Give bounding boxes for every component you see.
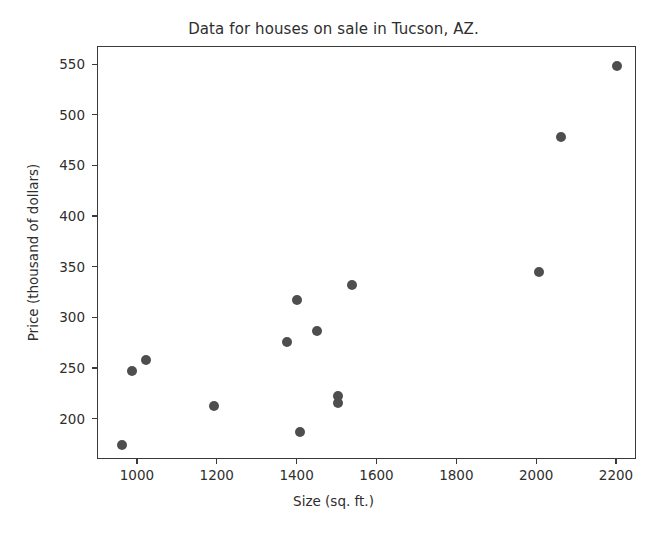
y-tick-mark (92, 418, 97, 419)
x-tick-label: 1000 (120, 467, 154, 483)
x-tick-mark (456, 459, 457, 464)
y-tick-label: 500 (59, 107, 85, 123)
x-axis-label: Size (sq. ft.) (0, 493, 667, 509)
y-tick-label: 250 (59, 360, 85, 376)
y-tick-mark (92, 165, 97, 166)
data-point (141, 355, 151, 365)
y-tick-label: 350 (59, 259, 85, 275)
data-point (333, 391, 343, 401)
data-point (534, 267, 544, 277)
y-tick-label: 550 (59, 56, 85, 72)
y-tick-label: 300 (59, 309, 85, 325)
y-tick-mark (92, 317, 97, 318)
y-tick-mark (92, 64, 97, 65)
x-tick-mark (536, 459, 537, 464)
x-tick-label: 1400 (279, 467, 313, 483)
x-tick-mark (376, 459, 377, 464)
x-tick-label: 1600 (359, 467, 393, 483)
data-point (209, 401, 219, 411)
y-tick-mark (92, 215, 97, 216)
y-tick-label: 450 (59, 157, 85, 173)
y-tick-mark (92, 114, 97, 115)
data-point (127, 366, 137, 376)
x-tick-mark (216, 459, 217, 464)
data-point (347, 280, 357, 290)
data-point (312, 326, 322, 336)
y-tick-label: 200 (59, 411, 85, 427)
x-tick-label: 1200 (200, 467, 234, 483)
y-tick-mark (92, 367, 97, 368)
y-tick-label: 400 (59, 208, 85, 224)
data-point (282, 337, 292, 347)
x-tick-label: 2000 (519, 467, 553, 483)
data-points-layer (98, 47, 635, 458)
y-tick-mark (92, 266, 97, 267)
data-point (117, 440, 127, 450)
scatter-chart-figure: Data for houses on sale in Tucson, AZ. 2… (0, 0, 667, 535)
x-tick-mark (136, 459, 137, 464)
x-tick-mark (296, 459, 297, 464)
data-point (295, 427, 305, 437)
x-tick-label: 2200 (599, 467, 633, 483)
data-point (292, 295, 302, 305)
chart-title: Data for houses on sale in Tucson, AZ. (0, 20, 667, 38)
y-axis-label: Price (thousand of dollars) (22, 46, 44, 459)
data-point (612, 61, 622, 71)
plot-area (97, 46, 636, 459)
x-tick-mark (615, 459, 616, 464)
x-tick-label: 1800 (439, 467, 473, 483)
data-point (556, 132, 566, 142)
